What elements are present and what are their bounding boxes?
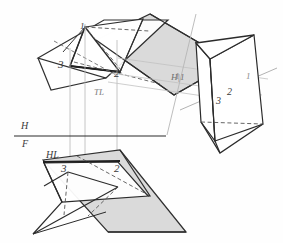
front-view-label-vertex-2: 2 [114, 163, 120, 174]
front-view-label-vertex-3: 3 [61, 163, 67, 174]
hf-label-f: F [22, 139, 28, 149]
aux-label-vertex-2: 2 [227, 87, 232, 97]
top-view-label-vertex-3: 3 [58, 59, 64, 70]
front-view-group [33, 150, 186, 234]
aux-label-vertex-3: 3 [216, 96, 221, 106]
drawing-canvas: 1 3 2 TL 1 1 2 3 H|1 H F HL 3 2 [0, 0, 283, 243]
top-view-label-true-length: TL [94, 88, 104, 97]
front-view-hl-edge [43, 161, 120, 162]
technical-drawing-svg [0, 0, 283, 243]
front-view-apex-to-mid [33, 212, 106, 234]
hf-label-h: H [21, 121, 28, 131]
top-view-label-vertex-2: 2 [114, 68, 120, 79]
top-view-label-vertex-1: 1 [80, 22, 85, 31]
aux-label-vertex-1-right: 1 [246, 72, 251, 81]
h1-fold-line-label: H|1 [171, 73, 184, 82]
front-view-label-horizontal-line: HL [46, 150, 59, 160]
